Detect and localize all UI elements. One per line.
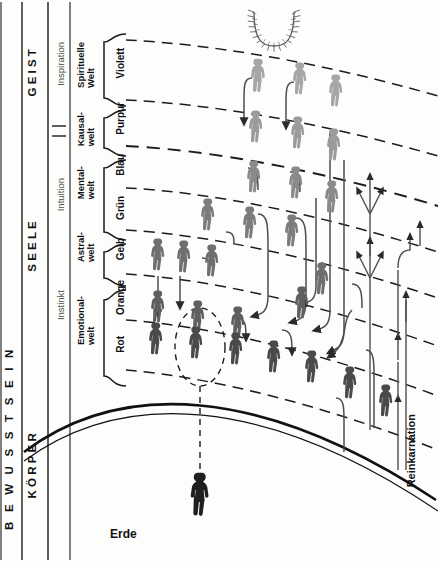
diagram-canvas: B E W U S S T S E I N KÖRPER SEELE GEIST… <box>0 0 438 562</box>
color-label-orange: Orange <box>116 280 126 315</box>
world-label-astral: Astral- welt <box>76 232 95 262</box>
triad-ticks <box>52 126 66 136</box>
color-label-blau: Blau <box>116 154 126 176</box>
erde-label: Erde <box>110 528 137 541</box>
world-label-kausal: Kausal- welt <box>76 112 95 146</box>
triad-label-seele: SEELE <box>27 218 39 272</box>
triad-label-geist: GEIST <box>27 46 39 97</box>
sense-label-instinkt: Instinkt <box>56 290 66 320</box>
diagram-vector-layer <box>0 0 438 562</box>
figure-connectors <box>158 78 374 452</box>
band-separator-curves <box>126 40 438 450</box>
color-label-gelb: Gelb <box>116 238 126 260</box>
color-label-gruen: Grün <box>116 196 126 220</box>
consciousness-axis-label: B E W U S S T S E I N <box>4 30 16 530</box>
earth-horizon-arc <box>24 404 438 511</box>
world-label-spirituelle: Spirituelle Welt <box>76 42 95 88</box>
radiant-sun-icon <box>248 10 301 52</box>
incarnated-figure <box>191 473 209 516</box>
color-label-purpur: Purpur <box>116 102 126 135</box>
color-label-rot: Rot <box>116 336 126 353</box>
sense-label-intuition: Intuition <box>56 178 66 211</box>
figure-field <box>149 59 392 516</box>
world-label-emotional: Emotional- welt <box>76 296 95 345</box>
sense-label-inspiration: Inspiration <box>56 42 66 86</box>
reinkarnation-label: Reinkarnation <box>406 414 417 487</box>
color-label-violett: Violett <box>116 48 126 78</box>
world-label-mental: Mental- welt <box>76 166 95 199</box>
triad-label-koerper: KÖRPER <box>27 430 39 498</box>
